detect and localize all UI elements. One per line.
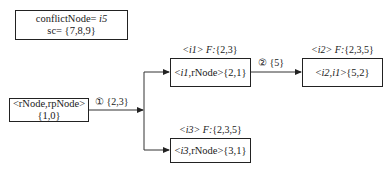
root-node-box: <rNode,rpNode> {1,0} (9, 98, 89, 122)
i1-f-label: F: (206, 44, 215, 55)
i2-rest: >{5,2} (340, 67, 369, 78)
edge-2-label: ② {5} (258, 57, 284, 69)
sc-set: sc= {7,8,9} (47, 25, 95, 37)
i2-id: <i2> (311, 44, 332, 55)
i2-f-set: {2,3,5} (344, 44, 374, 55)
root-node-pair: <rNode,rpNode> (13, 98, 85, 110)
i3-f-set: {2,3,5} (212, 124, 242, 135)
i3-node-text: <i3,rNode>{3,1} (174, 145, 246, 157)
i2-node-box: <i2,i1>{5,2} (302, 58, 383, 87)
conflict-node-value: i5 (99, 13, 107, 24)
i1-id: <i1> (182, 44, 203, 55)
i3-id: <i3> (179, 124, 200, 135)
i3-node-box: <i3,rNode>{3,1} (170, 138, 251, 163)
i1-rest: ,rNode>{2,1} (189, 67, 247, 78)
step-2-icon: ② (258, 57, 267, 68)
i3-rest: ,rNode>{3,1} (189, 145, 247, 156)
i1-header: <i1> F:{2,3} (170, 44, 250, 56)
i1-node-text: <i1,rNode>{2,1} (174, 67, 246, 79)
i1-node-box: <i1,rNode>{2,1} (170, 58, 251, 87)
conflict-node-label: conflictNode= (36, 13, 99, 24)
conflict-node-line: conflictNode= i5 (36, 13, 108, 25)
root-node-values: {1,0} (37, 110, 60, 122)
i3-header: <i3> F:{2,3,5} (170, 124, 251, 136)
i2-f-label: F: (335, 44, 344, 55)
edge-1-set: {2,3} (107, 96, 129, 107)
i3-f-label: F: (203, 124, 212, 135)
i1-f-set: {2,3} (216, 44, 238, 55)
i2-var: i2,i1 (321, 67, 340, 78)
i3-var: i3 (180, 145, 188, 156)
edge-1-label: ① {2,3} (95, 96, 129, 108)
step-1-icon: ① (95, 96, 104, 107)
i1-var: i1 (180, 67, 188, 78)
i2-header: <i2> F:{2,3,5} (302, 44, 383, 56)
i2-node-text: <i2,i1>{5,2} (315, 67, 369, 79)
conflict-node-box: conflictNode= i5 sc= {7,8,9} (15, 10, 128, 40)
edge-2-set: {5} (270, 57, 285, 68)
